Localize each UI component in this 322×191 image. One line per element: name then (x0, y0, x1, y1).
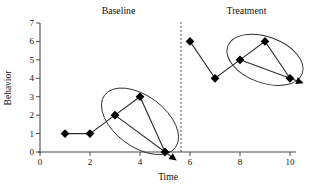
y-tick-label: 5 (30, 55, 35, 65)
y-tick-label: 6 (30, 36, 35, 46)
data-point (161, 148, 170, 157)
x-tick-label: 4 (138, 157, 143, 167)
x-tick-label: 6 (188, 157, 193, 167)
y-tick-label: 0 (30, 147, 35, 157)
data-point (61, 129, 70, 138)
data-point (186, 37, 195, 46)
x-tick-label: 10 (286, 157, 296, 167)
data-point (111, 111, 120, 120)
trend-ellipse (220, 25, 310, 96)
behavior-chart: 024681001234567TimeBehaviorBaselineTreat… (0, 0, 322, 191)
data-point (86, 129, 95, 138)
data-point (261, 37, 270, 46)
x-tick-label: 8 (238, 157, 243, 167)
data-line-baseline (65, 97, 165, 152)
y-tick-label: 1 (30, 129, 35, 139)
x-axis-label: Time (158, 172, 178, 182)
data-point (236, 55, 245, 64)
chart-canvas: 024681001234567TimeBehaviorBaselineTreat… (0, 0, 322, 191)
y-tick-label: 4 (30, 73, 35, 83)
y-tick-label: 7 (30, 18, 35, 28)
y-tick-label: 2 (30, 110, 35, 120)
y-tick-label: 3 (30, 92, 35, 102)
data-point (211, 74, 220, 83)
phase-label-baseline: Baseline (102, 5, 136, 16)
data-point (286, 74, 295, 83)
phase-label-treatment: Treatment (227, 5, 267, 16)
trend-arrowhead (169, 153, 177, 160)
y-axis-label: Behavior (3, 70, 13, 106)
x-tick-label: 2 (88, 157, 93, 167)
x-tick-label: 0 (38, 157, 43, 167)
